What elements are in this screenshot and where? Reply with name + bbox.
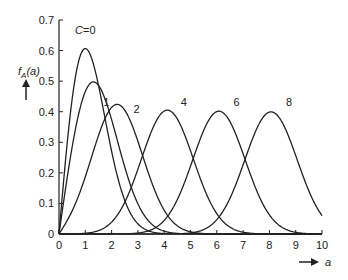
rice-distribution-chart: 00.10.20.30.40.50.60.7 012345678910 C=01…	[0, 0, 348, 280]
curve-label: 6	[233, 96, 239, 108]
y-tick-label: 0.2	[39, 167, 54, 179]
curve-C1	[59, 82, 322, 234]
y-tick-label: 0.5	[39, 75, 54, 87]
x-axis-label: a	[325, 256, 331, 268]
x-axis-arrow-icon	[299, 258, 319, 266]
curve-label: 2	[134, 103, 140, 115]
curve-C8	[59, 112, 322, 234]
y-tick-label: 0.3	[39, 136, 54, 148]
x-tick-label: 3	[135, 239, 141, 251]
x-tick-label: 0	[56, 239, 62, 251]
curve-label: 8	[286, 96, 292, 108]
curve-C4	[59, 110, 322, 234]
y-tick-label: 0.1	[39, 197, 54, 209]
curve-label: 1	[103, 96, 109, 108]
curve-label: 4	[181, 96, 187, 108]
x-tick-label: 9	[293, 239, 299, 251]
y-tick-label: 0.7	[39, 14, 54, 26]
y-axis: 00.10.20.30.40.50.60.7	[39, 14, 63, 240]
y-axis-arrow-icon	[22, 79, 30, 100]
x-tick-label: 10	[316, 239, 328, 251]
x-tick-label: 1	[82, 239, 88, 251]
x-tick-label: 5	[187, 239, 193, 251]
curve-C0	[59, 49, 322, 234]
curve-C6	[59, 111, 322, 234]
y-tick-label: 0.4	[39, 106, 54, 118]
curves	[59, 49, 322, 234]
x-tick-label: 8	[266, 239, 272, 251]
x-tick-label: 4	[161, 239, 167, 251]
y-tick-label: 0	[48, 228, 54, 240]
x-tick-label: 7	[240, 239, 246, 251]
y-tick-label: 0.6	[39, 45, 54, 57]
x-tick-label: 6	[214, 239, 220, 251]
curve-label: C=0	[75, 24, 96, 36]
x-tick-label: 2	[109, 239, 115, 251]
curve-labels: C=012468	[75, 24, 292, 115]
y-axis-label: fA(a)	[18, 65, 40, 80]
